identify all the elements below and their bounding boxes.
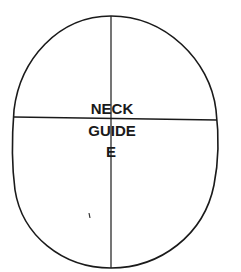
oval-outline (12, 16, 218, 268)
neck-guide-diagram: NECK GUIDE E (0, 0, 241, 272)
label-guide: GUIDE (88, 122, 136, 139)
label-neck: NECK (91, 100, 134, 117)
stray-mark (89, 213, 90, 218)
label-e: E (106, 143, 116, 160)
horizontal-axis-line (14, 117, 217, 120)
